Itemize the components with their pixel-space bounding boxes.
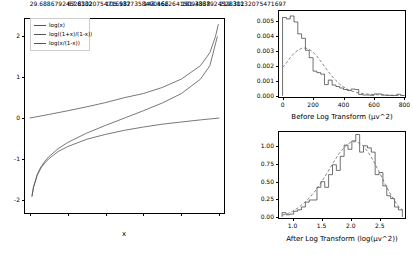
legend-line-icon-2 (34, 43, 46, 44)
tick-label: 800 (389, 101, 413, 108)
axis-tick-mark (276, 199, 278, 200)
legend-label-0: log(x) (49, 21, 65, 30)
axis-tick-mark (276, 66, 278, 67)
axis-tick-mark (344, 98, 345, 100)
left-panel-log-functions: 210-1-2 29.6886792452830267.613207547169… (0, 0, 240, 255)
tick-label: 2.5 (365, 222, 395, 229)
tick-label: 0.001 (244, 77, 274, 84)
axis-tick-mark (22, 77, 24, 78)
tick-label: 2 (0, 32, 20, 39)
top-right-panel-before-log: 0.0000.0010.0020.0030.0040.005 020040060… (240, 0, 413, 125)
bottom-right-panel-after-log: 0.000.250.500.751.00 1.01.52.02.5 After … (240, 125, 413, 255)
legend-item-1: log((1+x)/(1-x)) (34, 30, 86, 39)
axis-tick-mark (22, 118, 24, 119)
axis-tick-mark (276, 146, 278, 147)
axis-tick-mark (276, 182, 278, 183)
tick-label: 0.003 (244, 47, 274, 54)
axis-tick-mark (351, 219, 352, 221)
tick-label: 0.25 (244, 195, 274, 202)
axis-tick-mark (219, 214, 220, 216)
top-right-xaxis-label: Before Log Transform (μv^2) (277, 113, 407, 121)
curve-2 (32, 36, 217, 196)
axis-tick-mark (276, 164, 278, 165)
legend-label-1: log((1+x)/(1-x)) (49, 30, 92, 39)
tick-label: -1 (0, 155, 20, 162)
tick-label: 1.5 (307, 222, 337, 229)
left-legend: log(x) log((1+x)/(1-x)) log(x/(1-x)) (30, 18, 90, 51)
bottom-right-xaxis-label: After Log Transform (log(μv^2)) (272, 235, 412, 243)
tick-label: 0.50 (244, 178, 274, 185)
tick-label: 1.00 (244, 142, 274, 149)
tick-label: 0.002 (244, 62, 274, 69)
tick-label: 1.0 (278, 222, 308, 229)
histogram-outline (283, 16, 405, 96)
axis-tick-mark (143, 214, 144, 216)
tick-label: 600 (359, 101, 389, 108)
tick-label: 400 (329, 101, 359, 108)
tick-label: 0 (268, 101, 298, 108)
tick-label: 200 (298, 101, 328, 108)
axis-tick-mark (276, 51, 278, 52)
axis-tick-mark (30, 214, 31, 216)
axis-tick-mark (404, 98, 405, 100)
tick-label: 0.000 (244, 92, 274, 99)
kde-overlay-curve (282, 142, 403, 216)
tick-label: 0.75 (244, 160, 274, 167)
axis-tick-mark (68, 214, 69, 216)
tick-label: 2.0 (336, 222, 366, 229)
legend-item-0: log(x) (34, 21, 86, 30)
axis-tick-mark (374, 98, 375, 100)
legend-label-2: log(x/(1-x)) (49, 39, 80, 48)
legend-line-icon-1 (34, 34, 46, 35)
legend-item-2: log(x/(1-x)) (34, 39, 86, 48)
axis-tick-mark (276, 21, 278, 22)
tick-label: 1 (0, 73, 20, 80)
histogram-outline (282, 135, 402, 217)
axis-tick-mark (276, 217, 278, 218)
axis-tick-mark (22, 36, 24, 37)
axis-tick-mark (106, 214, 107, 216)
axis-tick-mark (293, 219, 294, 221)
axis-tick-mark (276, 96, 278, 97)
axis-tick-mark (322, 219, 323, 221)
matplotlib-figure: 210-1-2 29.6886792452830267.613207547169… (0, 0, 413, 255)
curve-0 (32, 118, 219, 196)
axis-tick-mark (276, 81, 278, 82)
tick-label: 0.004 (244, 32, 274, 39)
tick-label: 0 (0, 114, 20, 121)
axis-tick-mark (380, 219, 381, 221)
axis-tick-mark (283, 98, 284, 100)
axis-tick-mark (22, 159, 24, 160)
axis-tick-mark (181, 214, 182, 216)
left-xaxis-label: x (99, 230, 149, 238)
axis-tick-mark (313, 98, 314, 100)
tick-label: 0.00 (244, 213, 274, 220)
axis-tick-mark (276, 36, 278, 37)
legend-line-icon-0 (34, 25, 46, 26)
axis-tick-mark (22, 200, 24, 201)
tick-label: 0.005 (244, 17, 274, 24)
tick-label: -2 (0, 196, 20, 203)
